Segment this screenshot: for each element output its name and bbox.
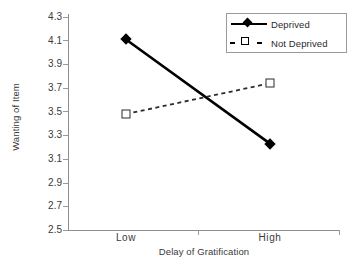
legend-item-not-deprived: Not Deprived — [227, 33, 346, 53]
legend-key-dashed-square — [227, 35, 271, 51]
legend-key-solid-diamond — [227, 16, 271, 32]
line-chart: Wanting of Item 4.3 4.1 3.9 3.7 3.5 3.3 … — [0, 0, 356, 278]
legend-label: Not Deprived — [271, 38, 328, 49]
dashed-line-icon — [257, 42, 262, 44]
series-line-not-deprived — [126, 83, 270, 114]
data-point-not-deprived-high — [266, 79, 275, 88]
legend-item-deprived: Deprived — [227, 14, 346, 34]
dashed-line-icon — [230, 42, 235, 44]
legend: Deprived Not Deprived — [226, 13, 347, 53]
data-point-not-deprived-low — [122, 110, 131, 119]
legend-label: Deprived — [271, 19, 310, 30]
filled-diamond-icon — [243, 18, 253, 28]
open-square-icon — [241, 37, 249, 45]
series-line-deprived — [126, 39, 270, 143]
